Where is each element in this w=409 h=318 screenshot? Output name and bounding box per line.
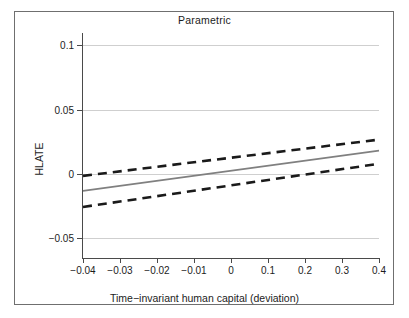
x-tick-label: −0.02 — [144, 265, 169, 276]
y-tick-mark — [77, 238, 82, 239]
y-tick-label: −0.05 — [49, 233, 74, 244]
x-tick-mark — [342, 258, 343, 263]
x-tick-mark — [83, 258, 84, 263]
plot-area: 0.10.050−0.05 −0.04−0.03−0.02−0.0100.10.… — [83, 33, 379, 258]
x-tick-mark — [120, 258, 121, 263]
x-tick-mark — [379, 258, 380, 263]
x-axis-label: Time−invariant human capital (deviation) — [0, 292, 409, 304]
x-tick-mark — [194, 258, 195, 263]
x-tick-label: 0.1 — [261, 265, 275, 276]
chart-title: Parametric — [0, 14, 409, 26]
y-tick-mark — [77, 110, 82, 111]
x-tick-mark — [231, 258, 232, 263]
y-axis-label: HLATE — [33, 142, 45, 175]
fit-line — [83, 151, 379, 191]
x-tick-label: 0.4 — [372, 265, 386, 276]
y-tick-label: 0.1 — [60, 40, 74, 51]
y-tick-mark — [77, 45, 82, 46]
x-tick-label: 0.3 — [335, 265, 349, 276]
y-tick-label: 0.05 — [55, 104, 74, 115]
x-tick-label: 0 — [228, 265, 234, 276]
x-tick-mark — [157, 258, 158, 263]
series-layer — [83, 33, 379, 258]
x-tick-label: 0.2 — [298, 265, 312, 276]
x-tick-label: −0.01 — [181, 265, 206, 276]
y-tick-label: 0 — [68, 168, 74, 179]
y-tick-mark — [77, 174, 82, 175]
x-tick-label: −0.03 — [107, 265, 132, 276]
x-tick-label: −0.04 — [70, 265, 95, 276]
x-tick-mark — [268, 258, 269, 263]
x-tick-mark — [305, 258, 306, 263]
figure-panel: Parametric HLATE Time−invariant human ca… — [0, 0, 409, 318]
